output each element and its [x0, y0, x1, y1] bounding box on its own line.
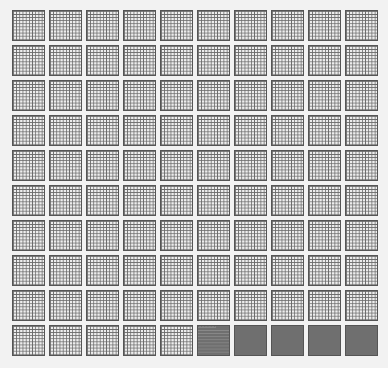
- grid-block: [345, 185, 378, 216]
- grid-block: [160, 255, 193, 286]
- grid-block: [308, 220, 341, 251]
- grid-block: [49, 290, 82, 321]
- grid-block: [160, 185, 193, 216]
- grid-block: [197, 150, 230, 181]
- grid-block: [49, 10, 82, 41]
- grid-block: [308, 255, 341, 286]
- grid-block: [123, 80, 156, 111]
- grid-block: [308, 185, 341, 216]
- grid-block: [86, 80, 119, 111]
- grid-block: [197, 290, 230, 321]
- grid-block: [271, 150, 304, 181]
- grid-block: [160, 115, 193, 146]
- grid-block: [308, 290, 341, 321]
- grid-block: [12, 45, 45, 76]
- grid-block: [345, 80, 378, 111]
- grid-block: [86, 10, 119, 41]
- grid-block: [271, 80, 304, 111]
- grid-block: [234, 255, 267, 286]
- grid-block: [86, 115, 119, 146]
- grid-block: [234, 185, 267, 216]
- grid-block: [234, 220, 267, 251]
- grid-block: [49, 325, 82, 356]
- grid-block: [234, 10, 267, 41]
- grid-block: [49, 115, 82, 146]
- grid-block: [123, 325, 156, 356]
- grid-block: [160, 80, 193, 111]
- grid-block: [234, 290, 267, 321]
- grid-block: [160, 45, 193, 76]
- grid-block: [197, 325, 230, 356]
- grid-block: [160, 290, 193, 321]
- grid-block: [345, 115, 378, 146]
- grid-block: [271, 255, 304, 286]
- grid-block: [271, 325, 304, 356]
- grid-block: [271, 10, 304, 41]
- grid-block: [197, 10, 230, 41]
- grid-block: [234, 115, 267, 146]
- grid-block: [123, 220, 156, 251]
- grid-block: [160, 10, 193, 41]
- grid-block: [308, 150, 341, 181]
- grid-block: [49, 220, 82, 251]
- grid-block: [234, 150, 267, 181]
- grid-block: [308, 115, 341, 146]
- grid-block: [197, 185, 230, 216]
- grid-block: [12, 150, 45, 181]
- grid-block: [197, 80, 230, 111]
- grid-block: [49, 185, 82, 216]
- grid-block: [12, 115, 45, 146]
- grid-block: [160, 220, 193, 251]
- grid-block: [123, 115, 156, 146]
- grid-block: [160, 325, 193, 356]
- grid-block: [86, 255, 119, 286]
- grid-block: [308, 80, 341, 111]
- grid-block: [271, 220, 304, 251]
- grid-block: [271, 115, 304, 146]
- grid-block: [12, 255, 45, 286]
- grid-block: [197, 115, 230, 146]
- grid-block: [345, 10, 378, 41]
- grid-block: [12, 10, 45, 41]
- grid-block: [308, 45, 341, 76]
- grid-block: [12, 185, 45, 216]
- grid-block: [86, 220, 119, 251]
- grid-block: [345, 150, 378, 181]
- block-grid: [12, 10, 378, 356]
- grid-block: [345, 220, 378, 251]
- grid-block: [123, 290, 156, 321]
- grid-block: [123, 255, 156, 286]
- grid-block: [123, 10, 156, 41]
- grid-block: [345, 290, 378, 321]
- grid-block: [271, 185, 304, 216]
- grid-block: [345, 325, 378, 356]
- grid-block: [86, 185, 119, 216]
- grid-block: [345, 45, 378, 76]
- grid-block: [271, 45, 304, 76]
- grid-block: [234, 325, 267, 356]
- grid-block: [49, 45, 82, 76]
- grid-block: [160, 150, 193, 181]
- grid-block: [86, 45, 119, 76]
- grid-block: [234, 45, 267, 76]
- grid-block: [234, 80, 267, 111]
- grid-block: [123, 185, 156, 216]
- grid-block: [12, 325, 45, 356]
- grid-block: [308, 10, 341, 41]
- grid-block: [345, 255, 378, 286]
- grid-block: [86, 290, 119, 321]
- grid-block: [197, 45, 230, 76]
- grid-block: [86, 325, 119, 356]
- grid-block: [12, 220, 45, 251]
- grid-block: [123, 150, 156, 181]
- grid-block: [86, 150, 119, 181]
- grid-block: [12, 80, 45, 111]
- grid-block: [49, 255, 82, 286]
- grid-block: [123, 45, 156, 76]
- grid-block: [49, 150, 82, 181]
- grid-block: [49, 80, 82, 111]
- grid-block: [308, 325, 341, 356]
- grid-block: [271, 290, 304, 321]
- grid-block: [12, 290, 45, 321]
- grid-block: [197, 255, 230, 286]
